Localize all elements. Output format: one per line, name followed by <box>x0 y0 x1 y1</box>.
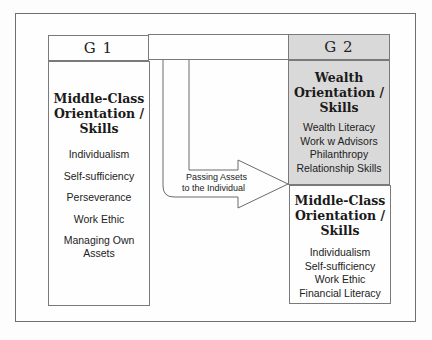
bent-arrow-icon <box>0 0 432 340</box>
arrow-label-line: to the Individual <box>182 183 278 194</box>
arrow-label-line: Passing Assets <box>182 172 278 183</box>
arrow-label: Passing Assets to the Individual <box>182 172 278 194</box>
